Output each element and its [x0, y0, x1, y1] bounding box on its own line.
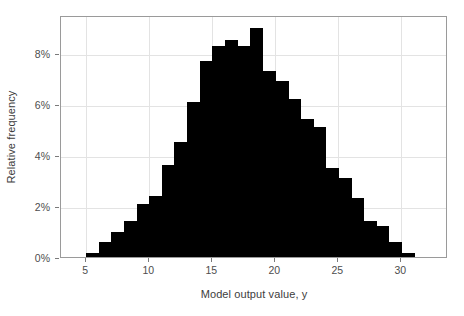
y-axis-tick-mark [55, 258, 59, 259]
histogram-bar [225, 40, 238, 257]
y-axis-tick-mark [55, 156, 59, 157]
histogram-bar [212, 46, 225, 257]
histogram-bar [389, 242, 402, 257]
x-axis-tick-label: 20 [259, 265, 289, 276]
histogram-bar [364, 221, 377, 257]
histogram-bar [326, 168, 339, 257]
y-axis-tick-label: 0% [0, 253, 50, 263]
x-axis-tick-mark [337, 258, 338, 262]
x-axis-tick-mark [85, 258, 86, 262]
histogram-bar [99, 242, 112, 257]
plot-panel [60, 16, 447, 258]
x-axis-tick-mark [274, 258, 275, 262]
y-axis-tick-mark [55, 54, 59, 55]
x-axis-tick-label: 10 [133, 265, 163, 276]
x-axis-tick-mark [148, 258, 149, 262]
x-axis-title: Model output value, y [60, 288, 448, 300]
histogram-bar [301, 119, 314, 257]
histogram-bar [111, 232, 124, 257]
x-axis-tick-label: 5 [70, 265, 100, 276]
histogram-bar [275, 81, 288, 257]
histogram-bar [250, 28, 263, 257]
x-axis-tick-mark [400, 258, 401, 262]
y-axis-tick-label: 6% [0, 100, 50, 110]
histogram-bar [174, 142, 187, 257]
histogram-bar [162, 165, 175, 257]
histogram-bar [376, 226, 389, 257]
histogram-bar [86, 253, 99, 257]
x-axis-tick-mark [211, 258, 212, 262]
histogram-bar [263, 71, 276, 257]
y-axis-tick-label: 2% [0, 202, 50, 212]
y-axis-tick-label: 4% [0, 151, 50, 161]
histogram-bars [61, 17, 446, 257]
histogram-bar [200, 61, 213, 257]
histogram-bar [338, 178, 351, 257]
histogram-bar [149, 196, 162, 257]
y-axis-tick-mark [55, 105, 59, 106]
x-axis-tick-label: 30 [385, 265, 415, 276]
histogram-bar [237, 46, 250, 257]
histogram-figure: Relative frequency 0%2%4%6%8% 5101520253… [0, 0, 464, 316]
x-axis-tick-label: 15 [196, 265, 226, 276]
histogram-bar [313, 127, 326, 257]
histogram-bar [187, 102, 200, 257]
y-axis-tick-label: 8% [0, 49, 50, 59]
histogram-bar [288, 99, 301, 257]
histogram-bar [351, 198, 364, 257]
histogram-bar [124, 221, 137, 257]
histogram-bar [401, 253, 414, 257]
y-axis-tick-mark [55, 207, 59, 208]
x-axis-tick-label: 25 [322, 265, 352, 276]
histogram-bar [137, 204, 150, 257]
